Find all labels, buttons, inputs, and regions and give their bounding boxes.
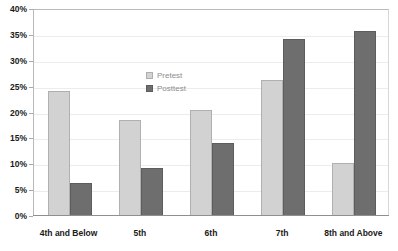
bar-posttest-4 xyxy=(283,39,305,216)
plot-area: Pretest Posttest xyxy=(33,9,389,216)
x-axis: 4th and Below5th6th7th8th and Above xyxy=(33,228,389,244)
x-tick-label: 8th and Above xyxy=(318,228,389,238)
y-tick-label: 20% xyxy=(10,108,27,117)
x-tick-label: 5th xyxy=(104,228,175,238)
bar-group xyxy=(48,10,92,216)
bar-pretest-3 xyxy=(190,110,212,216)
bar-group xyxy=(190,10,234,216)
legend-label-posttest: Posttest xyxy=(157,84,186,93)
bar-group xyxy=(261,10,305,216)
bar-pretest-2 xyxy=(119,120,141,216)
y-tick-label: 30% xyxy=(10,56,27,65)
y-tick-mark xyxy=(29,216,33,217)
bar-group xyxy=(332,10,376,216)
y-tick-label: 5% xyxy=(15,186,27,195)
bar-posttest-5 xyxy=(354,31,376,216)
y-tick-label: 35% xyxy=(10,30,27,39)
bar-pretest-4 xyxy=(261,80,283,216)
bar-posttest-3 xyxy=(212,143,234,216)
legend-item-posttest: Posttest xyxy=(146,83,216,94)
pretest-swatch-icon xyxy=(146,72,153,79)
x-axis-line xyxy=(33,215,389,216)
chart-legend: Pretest Posttest xyxy=(146,70,216,96)
y-tick-label: 10% xyxy=(10,160,27,169)
y-axis: 0%5%10%15%20%25%30%35%40% xyxy=(0,0,33,251)
y-tick-label: 15% xyxy=(10,134,27,143)
x-tick-label: 7th xyxy=(247,228,318,238)
bar-posttest-2 xyxy=(141,168,163,216)
posttest-swatch-icon xyxy=(146,85,153,92)
bars-layer xyxy=(34,10,388,216)
x-tick-label: 6th xyxy=(175,228,246,238)
bar-posttest-1 xyxy=(70,183,92,216)
legend-label-pretest: Pretest xyxy=(157,71,182,80)
bar-pretest-5 xyxy=(332,163,354,216)
bar-pretest-1 xyxy=(48,91,70,216)
bar-chart: 0%5%10%15%20%25%30%35%40% Pretest Postte… xyxy=(0,0,398,251)
y-tick-label: 40% xyxy=(10,5,27,14)
legend-item-pretest: Pretest xyxy=(146,70,216,81)
y-tick-label: 0% xyxy=(15,212,27,221)
y-tick-label: 25% xyxy=(10,82,27,91)
x-tick-label: 4th and Below xyxy=(33,228,104,238)
bar-group xyxy=(119,10,163,216)
